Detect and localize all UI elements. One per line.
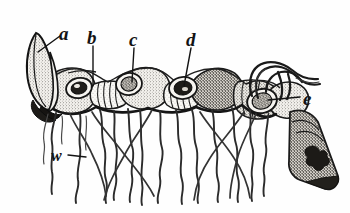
botanical-figure: a b c d e w [0, 0, 350, 213]
figure-label-c: c [129, 30, 137, 49]
figure-label-e: e [303, 89, 311, 108]
figure-label-d: d [186, 30, 196, 49]
leader-line-w [68, 155, 86, 157]
figure-label-a: a [59, 24, 69, 43]
rhizome-illustration [0, 0, 350, 213]
figure-label-b: b [87, 28, 97, 47]
figure-label-w: w [51, 148, 62, 164]
